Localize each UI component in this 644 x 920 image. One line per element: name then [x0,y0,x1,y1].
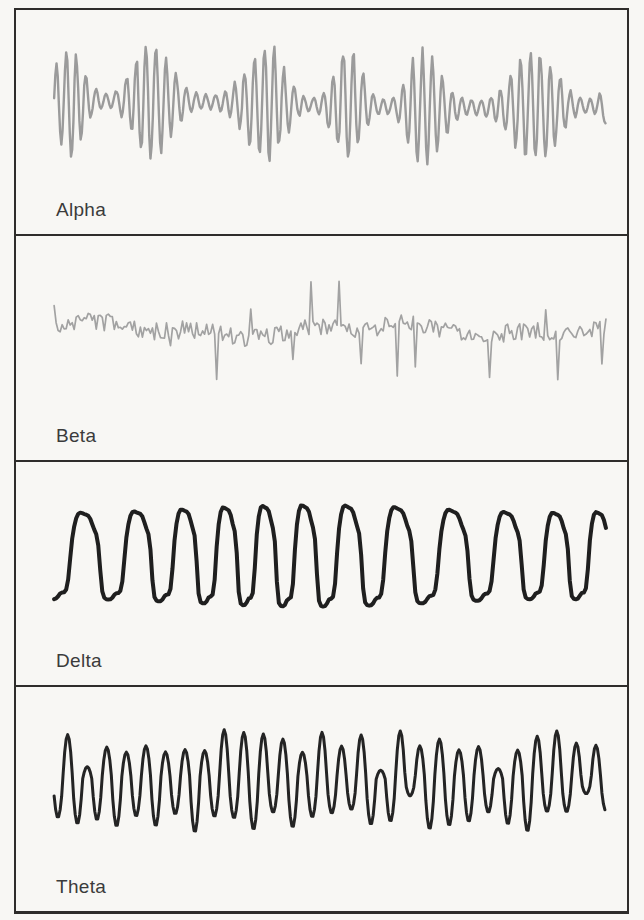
panel-beta: Beta [16,236,627,462]
theta-label: Theta [56,876,106,898]
beta-label: Beta [56,425,96,447]
theta-wave-trace [16,687,627,911]
beta-wave-path [54,281,606,379]
panel-alpha: Alpha [16,10,627,236]
theta-wave-path [54,730,605,831]
alpha-wave-path [54,47,605,165]
delta-label: Delta [56,650,102,672]
alpha-wave-trace [16,10,627,234]
delta-wave-path [54,505,606,606]
alpha-label: Alpha [56,199,106,221]
beta-wave-trace [16,236,627,460]
panel-theta: Theta [16,687,627,911]
panel-delta: Delta [16,462,627,688]
eeg-waveform-figure: Alpha Beta Delta Theta [14,8,629,914]
delta-wave-trace [16,462,627,686]
